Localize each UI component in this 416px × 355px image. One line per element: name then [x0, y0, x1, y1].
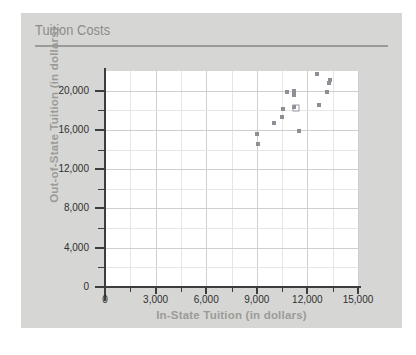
x-axis-tick-label: 3,000 [143, 294, 168, 305]
gridline-vertical [257, 71, 258, 287]
y-axis-tick [95, 168, 104, 170]
x-axis-tick [104, 287, 106, 294]
scatter-point [285, 90, 289, 94]
y-axis-tick-label: 16,000 [39, 124, 89, 135]
x-axis-tick-label: 0 [102, 294, 108, 305]
y-axis-tick-label: 8,000 [39, 202, 89, 213]
x-axis-tick [256, 287, 258, 294]
gridline-vertical-minor [130, 71, 131, 287]
gridline-horizontal [105, 130, 358, 131]
y-axis-tick-minor [98, 228, 104, 229]
x-axis-tick-label: 15,000 [343, 294, 374, 305]
y-axis-tick-label: 0 [39, 281, 89, 292]
gridline-horizontal-minor [105, 189, 358, 190]
gridline-vertical [156, 71, 157, 287]
gridline-horizontal [105, 248, 358, 249]
scatter-point [315, 72, 319, 76]
y-axis-tick-label: 4,000 [39, 242, 89, 253]
gridline-vertical-minor [232, 71, 233, 287]
x-axis-tick [155, 287, 157, 294]
x-axis-tick [357, 287, 359, 294]
gridline-vertical [206, 71, 207, 287]
x-axis-tick-minor [232, 287, 233, 292]
scatter-point [255, 132, 259, 136]
y-axis-tick-minor [98, 189, 104, 190]
x-axis-tick-minor [181, 287, 182, 292]
x-axis-tick-minor [333, 287, 334, 292]
y-axis-tick-label: 20,000 [39, 85, 89, 96]
y-axis-tick-minor [98, 267, 104, 268]
page-title: Tuition Costs [35, 22, 110, 38]
y-axis-tick-minor [98, 110, 104, 111]
y-axis-tick [95, 90, 104, 92]
scatter-point [292, 93, 296, 97]
x-axis-tick-label: 12,000 [292, 294, 323, 305]
scatter-point [281, 107, 285, 111]
x-axis-tick-minor [130, 287, 131, 292]
x-axis-line [104, 286, 361, 288]
tuition-costs-card: Tuition Costs Out-of-State Tuition (in d… [21, 13, 402, 328]
y-axis-line [104, 68, 106, 301]
y-axis-tick-minor [98, 150, 104, 151]
gridline-horizontal-minor [105, 150, 358, 151]
x-axis-title: In-State Tuition (in dollars) [105, 309, 358, 321]
x-axis-tick-minor [282, 287, 283, 292]
x-axis-tick-label: 9,000 [244, 294, 269, 305]
y-axis-tick [95, 207, 104, 209]
title-divider [35, 45, 388, 47]
scatter-point [256, 142, 260, 146]
scatter-point [317, 103, 321, 107]
gridline-horizontal-minor [105, 228, 358, 229]
x-axis-tick-label: 6,000 [194, 294, 219, 305]
gridline-vertical-minor [333, 71, 334, 287]
scatter-point [293, 104, 300, 111]
gridline-vertical [358, 71, 359, 287]
gridline-horizontal [105, 91, 358, 92]
y-axis-tick [95, 247, 104, 249]
scatter-point [297, 129, 301, 133]
gridline-horizontal [105, 208, 358, 209]
scatter-point [280, 115, 284, 119]
y-axis-tick [95, 129, 104, 131]
y-axis-title: Out-of-State Tuition (in dollars) [48, 10, 60, 220]
x-axis-tick [306, 287, 308, 294]
gridline-horizontal-minor [105, 110, 358, 111]
gridline-horizontal-minor [105, 267, 358, 268]
gridline-horizontal [105, 169, 358, 170]
gridline-vertical [307, 71, 308, 287]
scatter-point [328, 78, 332, 82]
gridline-vertical-minor [181, 71, 182, 287]
y-axis-tick [95, 286, 104, 288]
x-axis-tick [205, 287, 207, 294]
gridline-vertical-minor [282, 71, 283, 287]
scatter-point [272, 121, 276, 125]
y-axis-tick-label: 12,000 [39, 163, 89, 174]
scatter-point [325, 90, 329, 94]
